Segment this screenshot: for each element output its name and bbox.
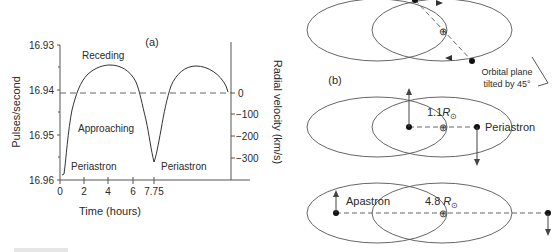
orbital-plane-label: tilted by 45°	[483, 79, 531, 89]
pulse-rate-curve	[62, 65, 228, 175]
right-tick-label: −200	[236, 131, 259, 142]
periastron-label-1: Periastron	[71, 161, 117, 172]
x-tick-label: 7.75	[144, 186, 164, 197]
x-tick-label: 0	[57, 186, 63, 197]
x-tick-label: 4	[105, 186, 111, 197]
right-y-axis-title: Radial velocity (km/s)	[272, 60, 284, 165]
x-tick-label: 6	[130, 186, 136, 197]
footer-bar	[14, 248, 68, 252]
right-tick-label: −100	[236, 109, 259, 120]
right-tick-label: −300	[236, 153, 259, 164]
figure: 16.93 16.94 16.95 16.96 0 2 4 6 7.75 0 −…	[0, 0, 557, 252]
periastron-diagram: ⊕ 1.1R⊙ Periastron	[307, 88, 535, 166]
y-tick-label: 16.93	[29, 40, 54, 51]
right-y-ticks	[231, 93, 235, 158]
receding-label: Receding	[82, 50, 124, 61]
panel-a-label: (a)	[145, 36, 158, 48]
orbit-direction-arrow-icon	[436, 0, 443, 6]
orbit-ellipse-left	[307, 0, 447, 61]
center-of-mass-icon: ⊕	[439, 208, 447, 219]
star-dot	[469, 58, 475, 64]
panel-b-diagram: ⊕ Orbital plane tilted by 45° (b) ⊕ 1.1R…	[307, 0, 551, 243]
periastron-label-2: Periastron	[161, 161, 207, 172]
separation-label: 1.1R⊙	[427, 106, 457, 121]
arrow-up-icon	[406, 88, 412, 95]
apastron-label: Apastron	[346, 195, 390, 207]
approaching-label: Approaching	[78, 123, 134, 134]
arrow-down-icon	[474, 159, 480, 166]
arrow-up-icon	[333, 190, 339, 197]
y-axis-title: Pulses/second	[10, 76, 22, 148]
right-tick-label: 0	[238, 88, 244, 99]
arrow-down-icon	[545, 229, 551, 236]
panel-a-chart: 16.93 16.94 16.95 16.96 0 2 4 6 7.75 0 −…	[10, 36, 284, 217]
orbit-direction-arrow-icon	[445, 55, 452, 61]
y-tick-label: 16.94	[29, 85, 54, 96]
center-of-mass-icon: ⊕	[439, 122, 447, 133]
panel-b-label: (b)	[328, 74, 341, 86]
y-tick-label: 16.96	[29, 175, 54, 186]
label-pointer	[532, 57, 548, 86]
center-of-mass-icon: ⊕	[439, 26, 447, 37]
periastron-label: Periastron	[485, 121, 535, 133]
y-tick-label: 16.95	[29, 130, 54, 141]
tilted-orbit-diagram: ⊕ Orbital plane tilted by 45°	[307, 0, 548, 89]
apastron-diagram: ⊕ 4.8R⊙ Apastron	[307, 183, 551, 243]
x-axis-title: Time (hours)	[79, 205, 141, 217]
orbital-plane-label: Orbital plane	[481, 67, 532, 77]
x-tick-label: 2	[81, 186, 87, 197]
